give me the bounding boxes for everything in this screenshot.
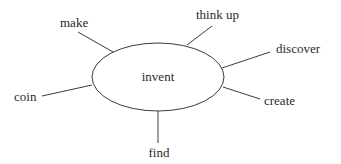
- branch-make: make: [60, 15, 113, 52]
- branch-label: discover: [276, 41, 321, 56]
- branch-create: create: [223, 87, 295, 108]
- branch-line: [42, 85, 92, 96]
- branch-label: think up: [196, 7, 239, 22]
- branch-find: find: [149, 111, 170, 160]
- branch-discover: discover: [222, 41, 321, 68]
- center-label: invent: [142, 69, 175, 84]
- branch-line: [223, 87, 260, 99]
- branch-line: [222, 52, 270, 68]
- branch-think-up: think up: [187, 7, 239, 45]
- branch-line: [78, 32, 113, 52]
- branch-label: coin: [14, 89, 37, 104]
- word-web-diagram: invent makethink updiscovercoincreatefin…: [0, 0, 341, 164]
- branch-label: make: [60, 15, 88, 30]
- branch-coin: coin: [14, 85, 92, 104]
- branch-label: find: [149, 145, 170, 160]
- branch-line: [187, 26, 212, 45]
- branch-label: create: [264, 93, 295, 108]
